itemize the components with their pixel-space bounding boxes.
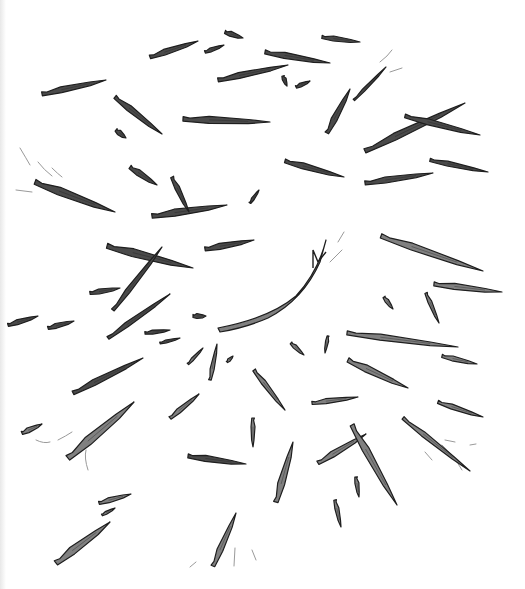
motion-line	[445, 440, 455, 442]
splinter-shard	[145, 330, 170, 334]
splinter-shard	[205, 45, 225, 53]
motion-line	[190, 562, 196, 567]
splinter-shard	[90, 288, 120, 295]
splinter-shard	[225, 30, 244, 38]
splinter-shard	[380, 234, 483, 271]
splinter-shard	[34, 179, 115, 212]
wood-grain-line	[94, 367, 126, 383]
motion-line	[252, 550, 256, 560]
splinter-shard	[21, 424, 42, 434]
splinter-shard	[347, 331, 458, 347]
motion-line	[330, 250, 342, 262]
splinter-shard	[425, 292, 439, 323]
wood-grain-line	[129, 108, 150, 125]
motion-line	[390, 68, 402, 72]
splinter-shard	[282, 76, 287, 87]
splinter-shard	[218, 65, 288, 82]
motion-line	[20, 148, 30, 165]
splinter-shard	[325, 336, 329, 353]
splinters-illustration	[0, 0, 525, 589]
wood-grain-line	[332, 441, 354, 454]
splinter-shard	[209, 344, 217, 380]
splinter-shard	[285, 159, 345, 177]
splinter-shard	[8, 316, 39, 326]
splinter-shard	[430, 158, 488, 172]
splinter-shard	[205, 240, 254, 251]
wood-grain-line	[423, 434, 453, 458]
wood-grain-line	[128, 263, 150, 291]
splinter-shard	[48, 321, 75, 329]
splinter-shard	[183, 116, 270, 123]
splinter-shard	[72, 358, 143, 395]
motion-line	[380, 50, 392, 62]
curved-splinter	[218, 240, 326, 332]
splinter-shard	[99, 494, 132, 504]
splinter-shard	[149, 41, 198, 59]
motion-line	[425, 452, 432, 460]
splinter-shard	[438, 400, 484, 417]
motion-line	[338, 232, 344, 242]
splinter-shard	[42, 80, 106, 96]
splinter-shard	[325, 89, 350, 134]
splinter-shard	[347, 358, 408, 388]
motion-line	[470, 444, 476, 445]
wood-grain-line	[412, 247, 458, 263]
splinter-shard	[188, 454, 246, 464]
wood-grain-line	[366, 368, 393, 381]
wood-grain-line	[72, 532, 96, 550]
splinter-shard	[160, 338, 180, 344]
motion-line	[85, 450, 88, 470]
splinters-drawing	[0, 0, 525, 589]
motion-line	[58, 432, 72, 440]
motion-line	[16, 190, 32, 192]
splinter-shard	[295, 81, 310, 88]
wood-grain-line	[127, 305, 155, 325]
splinter-shard	[274, 442, 293, 503]
splinter-shard	[322, 35, 360, 42]
splinter-shard	[334, 500, 341, 527]
splinter-shard	[355, 477, 359, 497]
splinter-shard	[365, 173, 433, 185]
splinter-shard	[114, 95, 162, 134]
wood-grain-line	[366, 449, 386, 485]
splinter-shard	[171, 176, 189, 212]
motion-line	[234, 548, 235, 566]
splinter-shard	[434, 282, 502, 292]
motion-line	[52, 168, 62, 177]
splinter-shard	[129, 165, 157, 185]
splinter-shard	[312, 397, 358, 405]
wood-grain-line	[263, 382, 277, 400]
wood-grain-line	[88, 416, 118, 441]
wood-grain-line	[179, 400, 192, 411]
wood-grain-line	[59, 191, 95, 205]
splinter-shard	[442, 354, 477, 364]
motion-line	[36, 440, 50, 443]
page-edge-shadow	[0, 0, 6, 589]
splinter-shard	[265, 50, 330, 63]
splinter-shard	[211, 513, 236, 567]
motion-line	[38, 162, 52, 176]
wood-grain-line	[364, 75, 378, 90]
